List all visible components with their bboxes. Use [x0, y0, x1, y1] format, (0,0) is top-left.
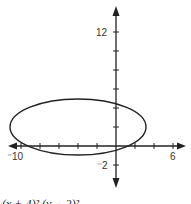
y-axis-up-arrow-icon [113, 6, 120, 16]
x-min-label: ⁻10 [7, 151, 24, 162]
x-axis-right-arrow-icon [177, 143, 186, 150]
coordinate-plane: ⁻10 6 12 ⁻2 (x + 4)² (y − 2)² [0, 0, 191, 204]
y-max-label: 12 [96, 27, 108, 38]
y-axis-down-arrow-icon [113, 178, 120, 188]
y-min-label: ⁻2 [97, 160, 108, 171]
x-max-label: 6 [170, 151, 176, 162]
x-axis-left-arrow-icon [8, 143, 17, 150]
ellipse-equation: (x + 4)² (y − 2)² [2, 197, 79, 204]
